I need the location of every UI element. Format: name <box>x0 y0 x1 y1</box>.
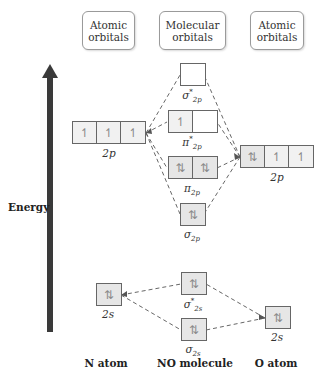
symbol: π <box>184 182 191 194</box>
n-2p-orbital: ↿ ↿ ↿ <box>72 121 146 144</box>
pi-star-2p-orbital: ↿ <box>168 110 218 133</box>
electron-cell: ↿ <box>289 146 313 167</box>
electron-cell <box>181 64 205 85</box>
o-atom-label: O atom <box>248 357 304 369</box>
o-2s-orbital: ⇅ <box>265 306 291 329</box>
n-2s-orbital: ⇅ <box>96 283 122 306</box>
subscript: 2s <box>194 305 202 313</box>
electron-cell: ⇅ <box>241 146 265 167</box>
header-atomic-orbitals-left: Atomic orbitals <box>82 11 135 50</box>
pi-2p-orbital: ⇅ ⇅ <box>168 156 218 179</box>
header-line: Molecular <box>166 19 220 31</box>
header-line: Atomic <box>90 19 127 31</box>
electron-cell: ↿ <box>169 111 193 132</box>
sigma-star-2p-orbital <box>180 63 206 86</box>
n-atom-label: N atom <box>78 357 134 369</box>
energy-label: Energy <box>8 201 49 213</box>
o-2s-label: 2s <box>252 331 302 343</box>
subscript: 2p <box>191 189 200 197</box>
electron-cell: ⇅ <box>193 157 217 178</box>
pi-star-2p-label: π*2p <box>167 135 217 151</box>
header-atomic-orbitals-right: Atomic orbitals <box>250 11 304 50</box>
electron-cell: ↿ <box>97 122 121 143</box>
symbol: σ <box>184 298 191 310</box>
subscript: 2p <box>191 235 200 243</box>
electron-cell: ⇅ <box>182 319 206 340</box>
sigma-2s-label: σ2s <box>168 343 218 358</box>
header-line: orbitals <box>257 31 298 43</box>
electron-cell: ⇅ <box>169 157 193 178</box>
subscript: 2p <box>193 143 202 151</box>
n-2p-label: 2p <box>84 147 134 159</box>
sigma-2p-orbital: ⇅ <box>180 203 206 226</box>
o-2p-label: 2p <box>252 171 302 183</box>
sigma-star-2s-label: σ*2s <box>168 297 218 313</box>
header-line: orbitals <box>88 31 129 43</box>
header-molecular-orbitals: Molecular orbitals <box>159 11 226 50</box>
electron-cell: ↿ <box>265 146 289 167</box>
sigma-star-2s-orbital: ⇅ <box>181 272 207 295</box>
header-line: Atomic <box>258 19 295 31</box>
electron-cell: ⇅ <box>181 204 205 225</box>
o-2p-orbital: ⇅ ↿ ↿ <box>240 145 314 168</box>
pi-2p-label: π2p <box>167 182 217 197</box>
sigma-star-2p-label: σ*2p <box>167 88 217 104</box>
no-molecule-label: NO molecule <box>155 357 235 369</box>
sigma-2s-orbital: ⇅ <box>181 318 207 341</box>
symbol: σ <box>185 343 192 355</box>
n-2s-label: 2s <box>83 308 133 320</box>
electron-cell: ↿ <box>121 122 145 143</box>
electron-cell: ⇅ <box>266 307 290 328</box>
subscript: 2p <box>193 96 202 104</box>
sigma-2p-label: σ2p <box>167 228 217 243</box>
electron-cell: ⇅ <box>182 273 206 294</box>
header-line: orbitals <box>172 31 213 43</box>
electron-cell: ⇅ <box>97 284 121 305</box>
electron-cell <box>193 111 217 132</box>
electron-cell: ↿ <box>73 122 97 143</box>
